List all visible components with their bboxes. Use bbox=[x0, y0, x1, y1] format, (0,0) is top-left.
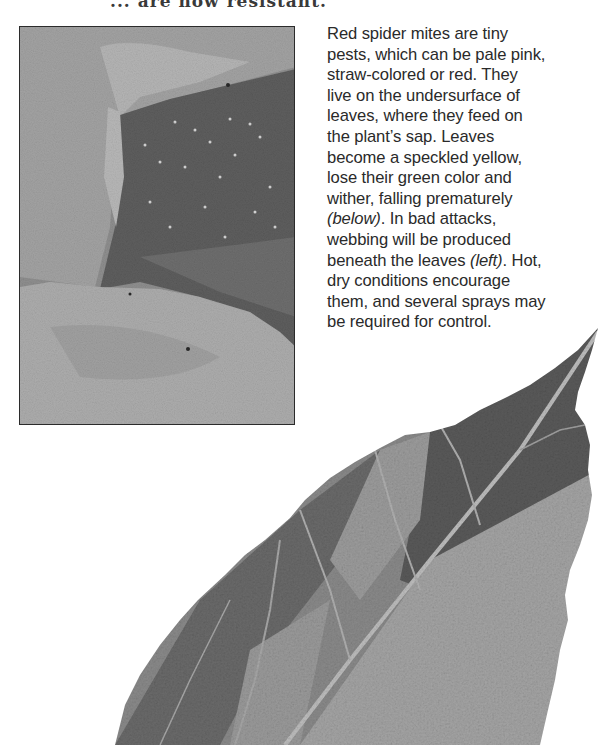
paragraph-line: the plant’s sap. Leaves bbox=[327, 127, 598, 148]
paragraph-line: (below). In bad attacks, bbox=[327, 209, 598, 230]
figure-reference-left: (left) bbox=[470, 251, 503, 270]
paragraph-line: wither, falling prematurely bbox=[327, 189, 598, 210]
paragraph-line-tail: . Hot, bbox=[503, 251, 542, 270]
figure-reference-below: (below) bbox=[327, 209, 381, 228]
paragraph-line: become a speckled yellow, bbox=[327, 148, 598, 169]
paragraph-line: them, and several sprays may bbox=[327, 292, 598, 313]
paragraph-line: Red spider mites are tiny bbox=[327, 24, 598, 45]
paragraph-line: beneath the leaves (left). Hot, bbox=[327, 251, 598, 272]
paragraph-line-head: beneath the leaves bbox=[327, 251, 470, 270]
webbing-photo bbox=[19, 26, 295, 425]
paragraph-line: webbing will be produced bbox=[327, 230, 598, 251]
paragraph-line: pests, which can be pale pink, bbox=[327, 45, 598, 66]
webbing-photo-image bbox=[20, 27, 295, 425]
body-paragraph: Red spider mites are tiny pests, which c… bbox=[327, 24, 598, 333]
paragraph-line: live on the undersurface of bbox=[327, 86, 598, 107]
paragraph-line-tail: . In bad attacks, bbox=[381, 209, 496, 228]
heading-fragment: ... are now resistant. bbox=[110, 0, 530, 11]
paragraph-line: be required for control. bbox=[327, 312, 598, 333]
paragraph-line: straw-colored or red. They bbox=[327, 65, 598, 86]
paragraph-line: leaves, where they feed on bbox=[327, 106, 598, 127]
paragraph-line: lose their green color and bbox=[327, 168, 598, 189]
paragraph-line: dry conditions encourage bbox=[327, 271, 598, 292]
